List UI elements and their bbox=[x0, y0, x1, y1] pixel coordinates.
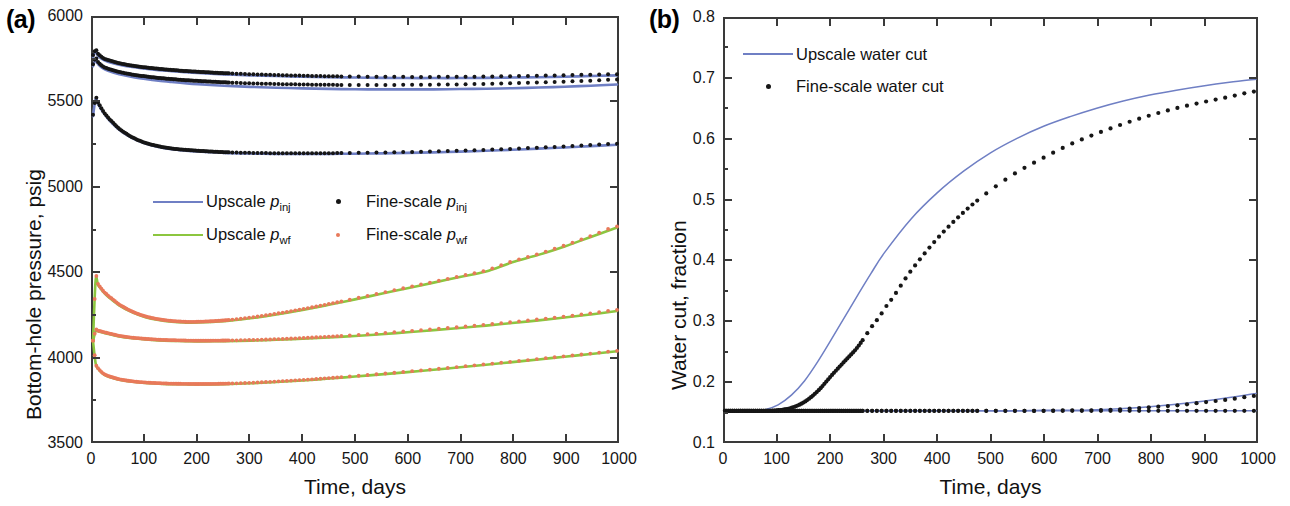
panel-b-xtick-label: 800 bbox=[1138, 450, 1165, 468]
legend-line-key bbox=[150, 201, 206, 203]
panel-a-xtick-label: 900 bbox=[553, 450, 580, 468]
panel-b-xtick-label: 500 bbox=[977, 450, 1004, 468]
panel-a-ytick-label: 4000 bbox=[47, 349, 83, 367]
panel-b-xtick-mark bbox=[1043, 434, 1045, 443]
panel-b-ytick-mark bbox=[723, 77, 732, 79]
panel-a-xtick-label: 600 bbox=[394, 450, 421, 468]
panel-a-xtick-mark bbox=[301, 434, 303, 443]
panel-a-xtick-label: 300 bbox=[236, 450, 263, 468]
panel-a-xtick-mark bbox=[143, 434, 145, 443]
panel-a-ytick-label: 6000 bbox=[47, 7, 83, 25]
panel-b-xtick-mark-top bbox=[1204, 17, 1206, 26]
panel-a-x-axis-title: Time, days bbox=[304, 475, 406, 499]
panel-a-ytick-label: 5000 bbox=[47, 178, 83, 196]
panel-b-tag: (b) bbox=[649, 5, 679, 34]
legend-item-label: Fine-scale water cut bbox=[796, 77, 944, 96]
panel-a-xtick-mark-top bbox=[196, 16, 198, 25]
panel-a-xtick-label: 800 bbox=[500, 450, 527, 468]
legend-item-label: Upscale pwf bbox=[206, 225, 291, 244]
panel-b-ytick-label: 0.3 bbox=[693, 312, 715, 330]
panel-b-xtick-mark-top bbox=[990, 17, 992, 26]
panel-a-xtick-label: 400 bbox=[289, 450, 316, 468]
panel-b-ytick-mark bbox=[723, 381, 732, 383]
panel-a-xtick-mark-top bbox=[248, 16, 250, 25]
panel-b-ytick-minor bbox=[723, 168, 728, 170]
panel-b-ytick-label: 0.8 bbox=[693, 8, 715, 26]
panel-b-xtick-label: 0 bbox=[719, 450, 728, 468]
panel-a-ytick-label: 3500 bbox=[47, 434, 83, 452]
panel-b-ytick-mark bbox=[723, 259, 732, 261]
legend-line-swatch bbox=[743, 53, 793, 55]
panel-a-xtick-mark bbox=[248, 434, 250, 443]
panel-b-ytick-label: 0.4 bbox=[693, 251, 715, 269]
legend-item: Upscale water cut bbox=[740, 38, 944, 70]
legend-item: Upscale pwf bbox=[150, 220, 310, 250]
panel-b-ytick-label: 0.5 bbox=[693, 191, 715, 209]
panel-a-xtick-mark-top bbox=[143, 16, 145, 25]
panel-b-xtick-label: 900 bbox=[1191, 450, 1218, 468]
panel-a-xtick-label: 0 bbox=[87, 450, 96, 468]
legend-row: Upscale pwfFine-scale pwf bbox=[150, 218, 467, 251]
legend-marker-swatch bbox=[766, 84, 771, 89]
series-markers bbox=[723, 89, 1256, 413]
legend-line-swatch bbox=[153, 234, 203, 236]
panel-b-ytick-mark-right bbox=[1249, 381, 1258, 383]
panel-b-ytick-label: 0.2 bbox=[693, 373, 715, 391]
panel-b-xtick-label: 300 bbox=[870, 450, 897, 468]
panel-b-y-axis-title: Water cut, fraction bbox=[667, 220, 691, 390]
panel-b-xtick-mark-top bbox=[776, 17, 778, 26]
panel-a-xtick-mark-top bbox=[407, 16, 409, 25]
panel-a-xtick-label: 1000 bbox=[601, 450, 637, 468]
series-markers bbox=[91, 308, 619, 343]
legend-item: Fine-scale pinj bbox=[310, 187, 467, 217]
series-line bbox=[93, 341, 617, 384]
panel-a-y-axis-title: Bottom-hole pressure, psig bbox=[22, 169, 46, 420]
panel-b-xtick-label: 200 bbox=[817, 450, 844, 468]
panel-b-ytick-minor bbox=[723, 351, 728, 353]
panel-b-xtick-mark-top bbox=[1043, 17, 1045, 26]
panel-b-xtick-mark bbox=[776, 434, 778, 443]
panel-b-legend: Upscale water cutFine-scale water cut bbox=[740, 38, 944, 102]
panel-a-xtick-mark bbox=[460, 434, 462, 443]
panel-b-xtick-label: 1000 bbox=[1240, 450, 1276, 468]
legend-item-label: Fine-scale pwf bbox=[366, 225, 467, 244]
panel-a-ytick-mark bbox=[91, 100, 100, 102]
panel-b-ytick-mark-right bbox=[1249, 199, 1258, 201]
panel-b-ytick-minor bbox=[723, 290, 728, 292]
legend-marker-swatch bbox=[336, 199, 341, 204]
panel-b-ytick-label: 0.1 bbox=[693, 434, 715, 452]
panel-b-ytick-label: 0.7 bbox=[693, 69, 715, 87]
panel-a-xtick-mark-top bbox=[460, 16, 462, 25]
panel-a-xtick-mark bbox=[196, 434, 198, 443]
legend-item: Fine-scale pwf bbox=[310, 220, 467, 250]
series-markers bbox=[91, 339, 619, 386]
legend-line-swatch bbox=[153, 201, 203, 203]
series-line bbox=[93, 52, 617, 78]
panel-b-xtick-mark bbox=[990, 434, 992, 443]
panel-a-xtick-mark bbox=[512, 434, 514, 443]
panel-a-xtick-label: 500 bbox=[342, 450, 369, 468]
panel-b-xtick-mark bbox=[1097, 434, 1099, 443]
panel-a-ytick-mark-right bbox=[610, 271, 619, 273]
panel-b-xtick-mark-top bbox=[829, 17, 831, 26]
panel-b-ytick-minor bbox=[723, 107, 728, 109]
panel-a-ytick-minor bbox=[91, 399, 96, 401]
panel-b-xtick-label: 100 bbox=[763, 450, 790, 468]
panel-b-ytick-mark-right bbox=[1249, 77, 1258, 79]
legend-item: Fine-scale water cut bbox=[740, 70, 944, 102]
panel-a-ytick-mark bbox=[91, 357, 100, 359]
panel-b-ytick-minor bbox=[723, 412, 728, 414]
series-line bbox=[93, 311, 617, 341]
panel-a-xtick-mark-top bbox=[301, 16, 303, 25]
panel-a-xtick-mark bbox=[565, 434, 567, 443]
panel-a-xtick-label: 100 bbox=[130, 450, 157, 468]
series-line bbox=[725, 79, 1256, 411]
panel-b-xtick-mark-top bbox=[1097, 17, 1099, 26]
panel-b-ytick-mark-right bbox=[1249, 138, 1258, 140]
panel-b-ytick-minor bbox=[723, 46, 728, 48]
panel-b-xtick-mark bbox=[936, 434, 938, 443]
legend-item-label: Fine-scale pinj bbox=[366, 192, 467, 211]
panel-a-xtick-mark-top bbox=[565, 16, 567, 25]
panel-b-x-axis-title: Time, days bbox=[940, 475, 1042, 499]
legend-row: Upscale pinjFine-scale pinj bbox=[150, 185, 467, 218]
